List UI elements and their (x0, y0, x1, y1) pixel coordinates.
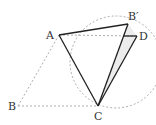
label-bprime: B′ (128, 10, 139, 23)
segment-a-bprime (59, 24, 128, 35)
segment-a-c (59, 35, 98, 106)
segment-d-c (98, 36, 137, 106)
geometry-diagram: A B′ D C B (0, 0, 156, 125)
segment-a-b (18, 35, 59, 106)
label-c: C (94, 110, 102, 123)
label-b: B (8, 100, 16, 113)
segment-bprime-c (98, 24, 128, 106)
label-d: D (139, 30, 148, 43)
label-a: A (45, 29, 55, 42)
